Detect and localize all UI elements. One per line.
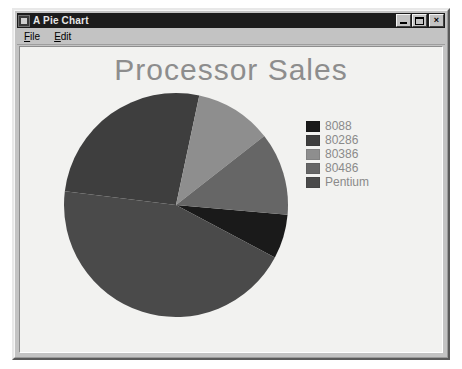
menu-item-edit-accel: E xyxy=(54,31,61,42)
legend-item: 80386 xyxy=(306,147,369,161)
pie-chart-svg xyxy=(63,92,289,318)
chart-legend: 8088802868038680486Pentium xyxy=(306,119,369,189)
chart-client-area: Processor Sales 8088802868038680486Penti… xyxy=(19,46,443,353)
close-button[interactable]: × xyxy=(429,14,444,27)
maximize-icon xyxy=(415,17,424,25)
legend-item: 80286 xyxy=(306,133,369,147)
minimize-button[interactable] xyxy=(396,14,411,27)
pie-chart xyxy=(63,92,289,318)
menu-item-file-rest: ile xyxy=(30,31,40,42)
legend-label: 80286 xyxy=(325,133,358,147)
legend-label: 80386 xyxy=(325,147,358,161)
legend-item: 8088 xyxy=(306,119,369,133)
legend-label: 80486 xyxy=(325,161,358,175)
legend-swatch-icon xyxy=(306,177,320,188)
desktop-background: A Pie Chart × File xyxy=(0,0,462,369)
legend-swatch-icon xyxy=(306,121,320,132)
legend-item: Pentium xyxy=(306,175,369,189)
minimize-icon xyxy=(400,22,407,24)
application-window: A Pie Chart × File xyxy=(12,8,450,360)
legend-swatch-icon xyxy=(306,149,320,160)
close-icon: × xyxy=(430,15,443,26)
menu-item-edit[interactable]: Edit xyxy=(47,30,78,44)
pie-slice xyxy=(65,93,199,205)
legend-label: Pentium xyxy=(325,175,369,189)
title-bar[interactable]: A Pie Chart × xyxy=(17,13,445,28)
legend-label: 8088 xyxy=(325,119,352,133)
chart-title: Processor Sales xyxy=(20,53,442,87)
legend-item: 80486 xyxy=(306,161,369,175)
window-inner-bevel: A Pie Chart × File xyxy=(14,10,448,358)
menu-bar: File Edit xyxy=(17,29,445,45)
legend-rows: 8088802868038680486Pentium xyxy=(306,119,369,189)
menu-item-edit-rest: dit xyxy=(61,31,72,42)
pie-slice-group xyxy=(64,93,288,317)
legend-swatch-icon xyxy=(306,135,320,146)
menu-item-file[interactable]: File xyxy=(17,30,47,44)
window-title: A Pie Chart xyxy=(33,15,89,26)
legend-swatch-icon xyxy=(306,163,320,174)
window-controls: × xyxy=(395,14,444,27)
maximize-button[interactable] xyxy=(412,14,427,27)
music-note-icon xyxy=(18,15,30,27)
